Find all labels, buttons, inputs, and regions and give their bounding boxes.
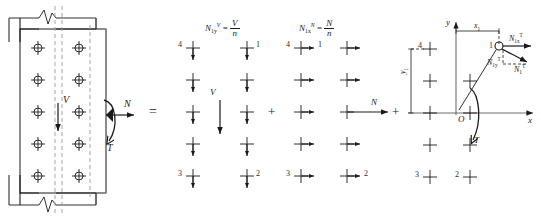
panel1-shear-label: V bbox=[63, 95, 69, 105]
equals-operator: = bbox=[149, 105, 157, 119]
panel2-formula-sup: V bbox=[217, 22, 221, 28]
panel1-gauge-lines bbox=[55, 6, 90, 216]
panel3-formula-eq: = bbox=[317, 23, 322, 33]
panel4-dim-x1-label: x1 bbox=[474, 22, 480, 32]
panel3-formula-fraction: N n bbox=[324, 19, 334, 38]
panel2-formula: N1yV = V n bbox=[205, 19, 240, 38]
panel2-force-label: V bbox=[210, 88, 216, 97]
panel3-bolt-label-3: 3 bbox=[286, 170, 290, 178]
panel3-formula-sup: N bbox=[311, 22, 315, 28]
panel3-bolt-label-1: 1 bbox=[318, 41, 322, 49]
panel4-dim-y1 bbox=[411, 49, 425, 113]
panel1-splice-plate bbox=[20, 29, 106, 193]
panel4-vector-label-y: N1yT bbox=[487, 57, 501, 68]
panel1-axial-label: N bbox=[124, 99, 131, 109]
panel4-bolt-label-4: 4 bbox=[418, 42, 422, 50]
plus-operator-1: + bbox=[268, 105, 275, 118]
panel4-bolt-label-2: 2 bbox=[455, 171, 459, 179]
panel4-bolt-label-1: 1 bbox=[489, 42, 493, 50]
panel4-dim-y1-label: y1 bbox=[399, 68, 409, 74]
panel2-formula-fraction: V n bbox=[230, 19, 240, 38]
panel2-bolt-label-2: 2 bbox=[256, 170, 260, 178]
panel3-bolt-label-2: 2 bbox=[364, 170, 368, 178]
panel2-formula-denominator: n bbox=[230, 29, 240, 38]
panel3-force-label: N bbox=[371, 98, 377, 107]
panel4-y-axis-label: y bbox=[446, 18, 450, 27]
panel2-bolt-label-4: 4 bbox=[178, 41, 182, 49]
panel4-vector-label-x: N1xT bbox=[509, 33, 523, 44]
panel4-x-axis-label: x bbox=[528, 116, 532, 125]
panel4-torsion-label: T bbox=[474, 136, 479, 145]
panel4-vector-label-resultant: N1T bbox=[514, 64, 525, 75]
panel4-bolt-label-3: 3 bbox=[415, 171, 419, 179]
panel3-formula: N1xN = N n bbox=[299, 19, 334, 38]
panel2-formula-eq: = bbox=[223, 23, 228, 33]
panel1-torsion-label: T bbox=[107, 143, 113, 153]
figure-canvas: V N T = + + N1yV = V n 4 1 3 2 V N1xN = … bbox=[0, 0, 541, 222]
panel4-origin-label: O bbox=[458, 115, 465, 124]
panel4-torsion-curl bbox=[470, 88, 479, 140]
panel3-formula-sub: 1x bbox=[305, 28, 311, 34]
panel3-formula-denominator: n bbox=[324, 29, 334, 38]
plus-operator-2: + bbox=[392, 105, 399, 118]
panel2-formula-sub: 1y bbox=[211, 28, 217, 34]
panel2-bolt-label-1: 1 bbox=[256, 41, 260, 49]
panel2-bolt-label-3: 3 bbox=[178, 170, 182, 178]
panel3-bolt-label-4: 4 bbox=[286, 41, 290, 49]
panel4-force-vectors bbox=[502, 46, 531, 64]
